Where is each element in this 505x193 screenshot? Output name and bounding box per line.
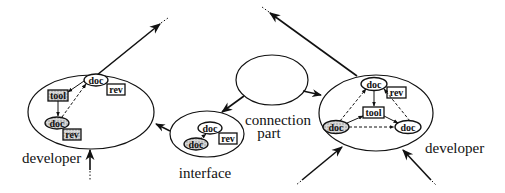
doc-label: doc xyxy=(89,75,105,86)
rev-label: rev xyxy=(221,133,235,144)
doc-label: doc xyxy=(401,122,417,133)
arrow-interface-to-dev-left xyxy=(156,124,170,131)
rev-label: rev xyxy=(109,84,123,95)
arrow-out-left-dev xyxy=(97,24,160,75)
connection-part-group: connection part xyxy=(222,55,321,141)
rev-label: rev xyxy=(390,87,404,98)
diagram-canvas: doc rev tool doc rev developer doc rev d… xyxy=(0,0,505,193)
tool-label: tool xyxy=(365,107,381,118)
doc-label: doc xyxy=(203,123,219,134)
developer-left-label: developer xyxy=(22,150,81,166)
developer-right-group: doc rev tool doc doc developer xyxy=(262,7,484,185)
rev-label: rev xyxy=(65,129,79,140)
part-label: part xyxy=(257,125,281,141)
arrow-in-right-dev-1 xyxy=(302,147,342,180)
tool-label: tool xyxy=(50,90,66,101)
interface-group: doc rev doc interface xyxy=(156,111,244,181)
developer-right-label: developer xyxy=(425,140,484,156)
doc-label: doc xyxy=(50,118,66,129)
diagram-svg: doc rev tool doc rev developer doc rev d… xyxy=(0,0,505,193)
doc-label: doc xyxy=(329,122,345,133)
arrow-connection-to-interface xyxy=(222,96,244,112)
connection-part-ellipse xyxy=(236,55,308,105)
arrow-out-right-dev xyxy=(270,13,357,76)
doc-label: doc xyxy=(189,139,205,150)
arrow-connection-to-dev-right xyxy=(303,91,321,95)
interface-label: interface xyxy=(179,165,232,181)
doc-label: doc xyxy=(367,79,383,90)
developer-left-group: doc rev tool doc rev developer xyxy=(22,18,168,180)
